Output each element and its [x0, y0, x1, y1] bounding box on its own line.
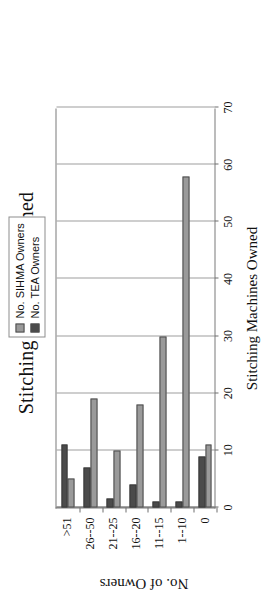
value-tick-label: 70: [220, 87, 235, 127]
x-axis-title: Stitching Machines Owned: [243, 108, 260, 508]
bar: [136, 404, 143, 507]
value-tick-label: 30: [220, 316, 235, 356]
category-tick: [170, 507, 171, 512]
bar: [90, 398, 97, 507]
value-tick: [214, 392, 218, 393]
value-tick: [214, 449, 218, 450]
value-tick-label: 0: [220, 487, 235, 527]
value-tick: [214, 277, 218, 278]
category-tick: [216, 507, 217, 512]
category-label: 16--20: [129, 517, 144, 549]
legend-label-sihma: No. SIHMA Owners: [13, 223, 25, 318]
gridline: [56, 335, 214, 336]
value-tick: [214, 106, 218, 107]
value-tick: [214, 163, 218, 164]
chart-figure: Stitching Machines Owned 010203040506070…: [0, 0, 271, 605]
gridline: [56, 220, 214, 221]
category-tick: [193, 507, 194, 512]
category-label: 21--25: [106, 517, 121, 549]
bar: [159, 336, 166, 507]
legend-item[interactable]: No. TEA Owners: [28, 223, 40, 332]
gridline: [56, 277, 214, 278]
legend: No. SIHMA Owners No. TEA Owners: [8, 216, 45, 337]
category-label: 0: [197, 517, 212, 523]
bar: [61, 444, 68, 507]
bar: [175, 501, 182, 507]
bar: [83, 467, 90, 507]
bar: [205, 444, 212, 507]
bar: [182, 176, 189, 507]
bar: [67, 478, 74, 507]
category-label: 26--50: [83, 517, 98, 549]
gridline: [56, 449, 214, 450]
category-label: 1--10: [174, 517, 189, 543]
category-tick: [102, 507, 103, 512]
value-tick: [214, 220, 218, 221]
y-axis-title: No. of Owners: [74, 575, 214, 592]
category-label: 11--15: [151, 517, 166, 549]
legend-swatch-sihma-icon: [15, 323, 24, 332]
plot-area: 010203040506070 01--1011--1516--2021--25…: [55, 108, 215, 508]
legend-item[interactable]: No. SIHMA Owners: [13, 223, 25, 332]
value-tick-label: 60: [220, 144, 235, 184]
bar: [129, 484, 136, 507]
bar: [198, 456, 205, 507]
gridline: [56, 392, 214, 393]
category-tick: [125, 507, 126, 512]
legend-label-tea: No. TEA Owners: [28, 236, 40, 318]
bar: [152, 501, 159, 507]
gridline: [56, 163, 214, 164]
category-tick: [147, 507, 148, 512]
value-tick-label: 20: [220, 373, 235, 413]
category-tick: [79, 507, 80, 512]
value-tick-label: 10: [220, 430, 235, 470]
value-tick: [214, 335, 218, 336]
bar: [113, 450, 120, 507]
rotated-figure-wrapper: Stitching Machines Owned 010203040506070…: [0, 0, 271, 605]
value-tick-label: 40: [220, 258, 235, 298]
legend-swatch-tea-icon: [30, 323, 39, 332]
bar: [106, 498, 113, 507]
value-tick-label: 50: [220, 201, 235, 241]
gridline: [56, 106, 214, 107]
category-label: >51: [60, 517, 75, 536]
